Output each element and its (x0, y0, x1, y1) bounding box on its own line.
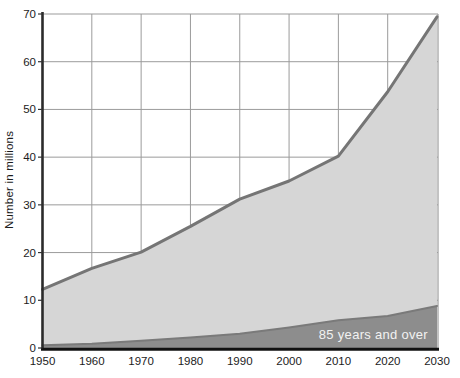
x-tick-label: 1950 (30, 355, 56, 367)
x-tick-label: 1960 (79, 355, 105, 367)
y-tick-label: 40 (23, 151, 36, 163)
area-chart-canvas: 0102030405060701950196019701980199020002… (0, 0, 460, 378)
x-tick-label: 1980 (178, 355, 204, 367)
y-axis-title: Number in millions (3, 130, 15, 230)
area-annotation-label: 85 years and over (319, 327, 429, 342)
y-tick-label: 20 (23, 247, 36, 259)
x-tick-label: 2020 (375, 355, 401, 367)
y-tick-label: 70 (23, 8, 36, 20)
y-tick-label: 50 (23, 103, 36, 115)
aging-population-chart: 0102030405060701950196019701980199020002… (0, 0, 460, 378)
y-tick-label: 0 (30, 342, 36, 354)
y-tick-label: 60 (23, 56, 36, 68)
x-tick-label: 2000 (276, 355, 302, 367)
x-tick-label: 1970 (128, 355, 154, 367)
x-tick-label: 2030 (424, 355, 450, 367)
x-tick-label: 1990 (227, 355, 253, 367)
x-tick-label: 2010 (326, 355, 352, 367)
y-tick-label: 30 (23, 199, 36, 211)
y-tick-label: 10 (23, 294, 36, 306)
